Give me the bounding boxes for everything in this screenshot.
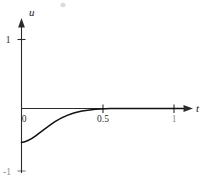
plot-canvas: u t 1 -1 0 0.5 1	[0, 0, 204, 176]
x-tick-label-0point5: 0.5	[97, 114, 109, 124]
y-tick-label-minus-1: -1	[3, 167, 11, 176]
scan-artifact-mark	[60, 3, 65, 7]
x-tick-label-0: 0	[22, 114, 27, 124]
y-tick-label-1: 1	[6, 35, 11, 45]
x-axis-label: t	[196, 102, 200, 114]
y-axis-label: u	[29, 6, 35, 18]
x-axis-arrow-icon	[184, 105, 194, 112]
figure-container: u t 1 -1 0 0.5 1	[0, 0, 204, 176]
x-tick-label-1: 1	[172, 114, 177, 124]
y-axis-arrow-icon	[18, 18, 25, 28]
